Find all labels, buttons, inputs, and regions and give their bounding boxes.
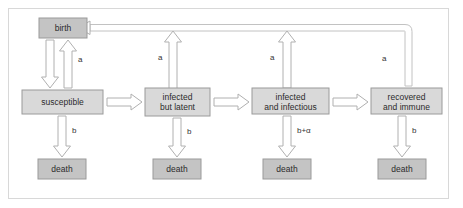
arrow-susceptible-to-birth	[60, 40, 77, 88]
edge-label-birth-rate-1: a	[78, 55, 83, 64]
node-death-2-label: death	[166, 164, 188, 174]
arrow-latent-to-birth	[165, 31, 182, 90]
node-death-3-label: death	[276, 164, 298, 174]
arrow-susceptible-to-death	[54, 116, 71, 157]
edge-label-birth-rate-2: a	[158, 53, 163, 62]
edge-label-death-rate-2: b	[187, 127, 192, 136]
node-infectious-label-line1: infected	[276, 92, 306, 102]
edge-label-birth-rate-3: a	[270, 53, 275, 62]
node-latent-label-line2: but latent	[160, 102, 196, 112]
seir-diagram-canvas: birth a susceptible b death a infected b…	[0, 0, 463, 208]
return-pipe-rail	[90, 25, 412, 87]
node-latent-label-line1: infected	[163, 92, 193, 102]
arrow-susceptible-to-latent	[107, 94, 142, 110]
node-susceptible-label: susceptible	[41, 97, 84, 107]
arrow-latent-to-infectious	[214, 94, 249, 110]
arrow-infectious-to-birth	[279, 31, 296, 88]
arrow-latent-to-death	[169, 118, 186, 157]
arrow-birth-to-susceptible	[42, 40, 59, 88]
arrow-infectious-to-recovered	[333, 94, 368, 110]
node-death-1-label: death	[51, 164, 73, 174]
edge-label-birth-rate-4: a	[382, 54, 387, 63]
node-recovered-label-line1: recovered	[388, 92, 426, 102]
node-birth-label: birth	[55, 23, 72, 33]
node-recovered-label-line2: and immune	[383, 102, 430, 112]
node-death-4-label: death	[391, 164, 413, 174]
edge-label-death-rate-3: b+α	[297, 126, 311, 135]
edge-label-death-rate-1: b	[72, 126, 77, 135]
edge-label-death-rate-4: b	[412, 126, 417, 135]
seir-diagram-figure: birth a susceptible b death a infected b…	[0, 0, 463, 208]
node-infectious-label-line2: and infectious	[264, 102, 316, 112]
arrow-recovered-to-death	[394, 116, 411, 157]
arrow-infectious-to-death	[279, 116, 296, 157]
